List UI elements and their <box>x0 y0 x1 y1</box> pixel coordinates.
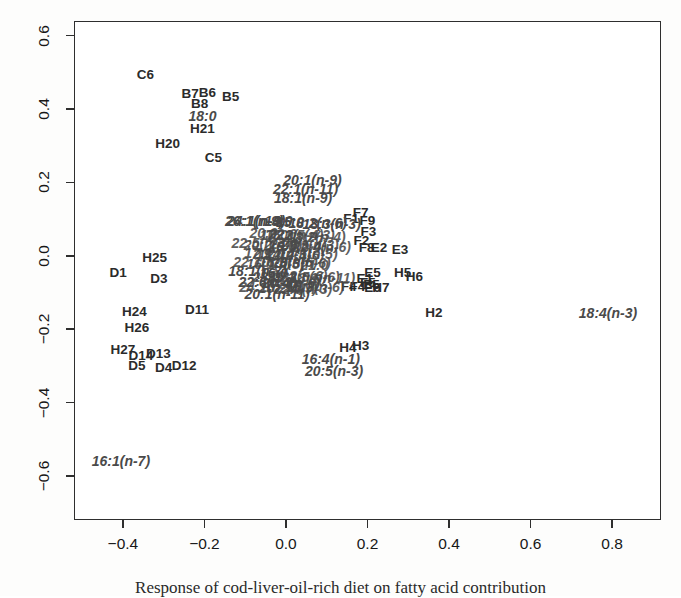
y-tick-label: −0.6 <box>35 461 53 492</box>
sample-point-label: D5 <box>128 359 145 373</box>
sample-point-label: D11 <box>185 303 209 317</box>
variable-point-label: 18:1(n-9) <box>274 191 332 205</box>
x-tick-mark <box>285 520 287 528</box>
sample-point-label: E3 <box>392 243 409 257</box>
y-tick-mark <box>66 35 74 37</box>
x-tick-mark <box>367 520 369 528</box>
x-tick-label: 0.8 <box>601 535 623 553</box>
sample-point-label: H20 <box>155 137 180 151</box>
x-tick-label: −0.4 <box>108 535 139 553</box>
x-tick-label: −0.2 <box>189 535 220 553</box>
x-tick-label: 0.2 <box>357 535 379 553</box>
sample-point-label: D13 <box>146 347 171 361</box>
variable-point-label: 18:0 <box>188 109 216 123</box>
y-tick-mark <box>66 108 74 110</box>
variable-point-label: 16:1(n-7) <box>92 454 150 468</box>
y-tick-label: −0.4 <box>35 387 53 418</box>
x-tick-label: 0.4 <box>438 535 460 553</box>
sample-point-label: H24 <box>122 305 147 319</box>
sample-point-label: H7 <box>372 281 389 295</box>
y-tick-label: 0.0 <box>35 245 53 267</box>
y-tick-label: 0.2 <box>35 172 53 194</box>
sample-point-label: D12 <box>172 359 197 373</box>
x-tick-mark <box>448 520 450 528</box>
y-tick-mark <box>66 402 74 404</box>
sample-point-label: D3 <box>150 272 167 286</box>
x-tick-label: 0.6 <box>520 535 542 553</box>
y-tick-label: −0.2 <box>35 314 53 345</box>
sample-point-label: H26 <box>124 321 149 335</box>
sample-point-label: C5 <box>205 151 222 165</box>
x-tick-label: 0.0 <box>275 535 297 553</box>
variable-point-label: 18:4(n-3) <box>579 306 637 320</box>
x-tick-mark <box>122 520 124 528</box>
x-tick-mark <box>611 520 613 528</box>
sample-point-label: H6 <box>406 270 423 284</box>
sample-point-label: D4 <box>155 361 172 375</box>
y-tick-mark <box>66 328 74 330</box>
x-tick-mark <box>530 520 532 528</box>
sample-point-label: B5 <box>222 91 239 105</box>
sample-point-label: H21 <box>190 122 215 136</box>
y-tick-label: 0.6 <box>35 25 53 47</box>
y-tick-label: 0.4 <box>35 98 53 120</box>
sample-point-label: H25 <box>142 251 167 265</box>
sample-point-label: H2 <box>425 306 442 320</box>
y-tick-mark <box>66 182 74 184</box>
y-tick-mark <box>66 255 74 257</box>
x-tick-mark <box>204 520 206 528</box>
y-tick-mark <box>66 475 74 477</box>
variable-point-label: 20:5(n-3) <box>305 364 363 378</box>
sample-point-label: D1 <box>109 267 126 281</box>
figure-caption: Response of cod-liver-oil-rich diet on f… <box>0 578 681 598</box>
sample-point-label: C6 <box>137 68 154 82</box>
variable-point-label: 16:3(n-6) <box>286 280 344 294</box>
sample-point-label: E2 <box>371 242 388 256</box>
